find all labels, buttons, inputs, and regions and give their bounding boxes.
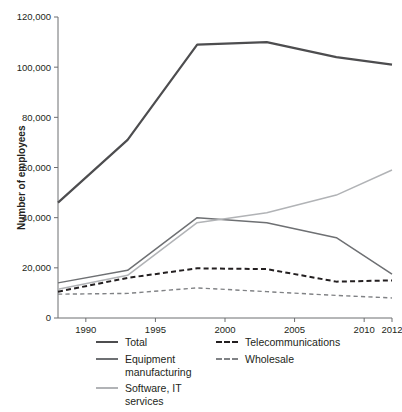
series-line-software-it-services <box>58 170 392 289</box>
legend-label-telecommunications: Telecommunications <box>245 336 340 349</box>
x-axis-tick-label: 2005 <box>284 324 305 335</box>
legend-swatch-software-it-services-icon <box>96 382 118 394</box>
y-axis-tick-label: 0 <box>46 312 51 323</box>
chart-plot-area: 020,00040,00060,00080,000100,000120,0001… <box>0 0 402 340</box>
chart-figure: 020,00040,00060,00080,000100,000120,0001… <box>0 0 402 412</box>
series-line-total <box>58 42 392 203</box>
legend-swatch-total-icon <box>96 336 118 348</box>
legend-column-left: Total Equipment manufacturing Software, … <box>96 336 216 411</box>
legend-item-equipment-manufacturing[interactable]: Equipment manufacturing <box>96 353 216 378</box>
legend-label-equipment-manufacturing: Equipment manufacturing <box>125 353 192 378</box>
x-axis-tick-label: 2010 <box>354 324 375 335</box>
x-axis-tick-label: 2000 <box>214 324 235 335</box>
line-chart-svg: 020,00040,00060,00080,000100,000120,0001… <box>0 0 402 340</box>
legend-item-telecommunications[interactable]: Telecommunications <box>216 336 396 349</box>
series-line-equipment-manufacturing <box>58 218 392 283</box>
y-axis-tick-label: 100,000 <box>17 62 51 73</box>
y-axis-title: Number of employees <box>16 126 27 230</box>
legend-label-total: Total <box>125 336 147 349</box>
x-axis-tick-label: 2012 <box>381 324 402 335</box>
x-axis-tick-label: 1990 <box>75 324 96 335</box>
legend-label-wholesale: Wholesale <box>245 353 294 366</box>
series-line-wholesale <box>58 288 392 298</box>
series-line-telecommunications <box>58 268 392 291</box>
legend-item-total[interactable]: Total <box>96 336 216 349</box>
y-axis-tick-label: 120,000 <box>17 11 51 22</box>
legend-swatch-wholesale-icon <box>216 353 238 365</box>
x-axis-tick-label: 1995 <box>145 324 166 335</box>
legend-label-software-it-services: Software, IT services <box>125 382 216 407</box>
legend-swatch-telecommunications-icon <box>216 336 238 348</box>
chart-legend: Total Equipment manufacturing Software, … <box>0 336 402 412</box>
y-axis-tick-label: 20,000 <box>22 262 51 273</box>
legend-swatch-equipment-manufacturing-icon <box>96 353 118 365</box>
legend-column-right: Telecommunications Wholesale <box>216 336 396 370</box>
y-axis-tick-label: 80,000 <box>22 112 51 123</box>
legend-item-software-it-services[interactable]: Software, IT services <box>96 382 216 407</box>
legend-item-wholesale[interactable]: Wholesale <box>216 353 396 366</box>
